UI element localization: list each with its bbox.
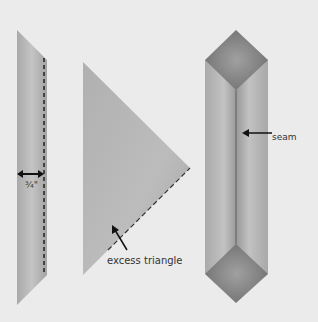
triangle-panel (83, 62, 190, 275)
fabric-strip (17, 30, 47, 305)
seam-label: seam (272, 132, 297, 142)
measurement-label: ¾" (25, 180, 38, 190)
diagram-canvas (0, 0, 318, 322)
sewn-panel (205, 30, 272, 303)
excess-triangle-label: excess triangle (107, 255, 183, 266)
strip-panel (17, 30, 47, 305)
folded-triangle (83, 62, 190, 275)
